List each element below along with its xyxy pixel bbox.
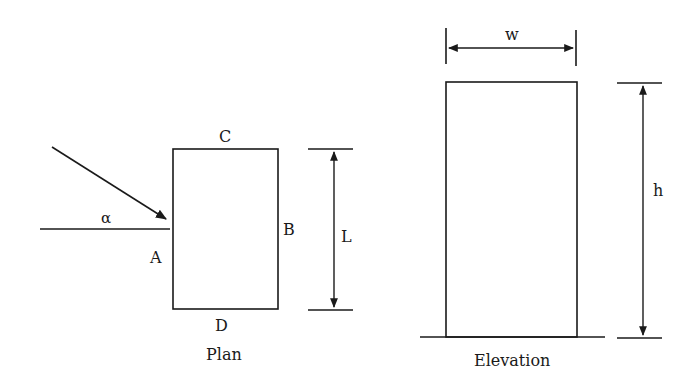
height-label: h bbox=[653, 181, 663, 200]
elevation-view: w h Elevation bbox=[420, 25, 663, 370]
elevation-title: Elevation bbox=[474, 351, 550, 370]
plan-building-outline bbox=[173, 149, 278, 309]
angle-alpha-label: α bbox=[101, 209, 111, 227]
plan-title: Plan bbox=[206, 345, 242, 364]
side-b-label: B bbox=[283, 220, 295, 239]
side-d-label: D bbox=[215, 316, 228, 335]
length-label: L bbox=[341, 227, 352, 246]
width-label: w bbox=[505, 25, 519, 44]
length-dimension: L bbox=[308, 149, 353, 310]
plan-view: α A B C D L Plan bbox=[40, 127, 353, 364]
width-dimension: w bbox=[446, 25, 576, 66]
diagram-canvas: α A B C D L Plan w bbox=[0, 0, 695, 383]
height-dimension: h bbox=[617, 83, 663, 338]
side-c-label: C bbox=[219, 127, 231, 146]
elevation-building-outline bbox=[446, 82, 577, 337]
side-a-label: A bbox=[149, 248, 162, 267]
